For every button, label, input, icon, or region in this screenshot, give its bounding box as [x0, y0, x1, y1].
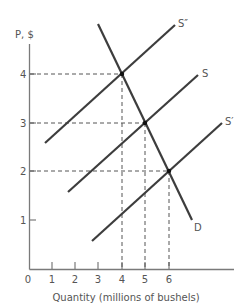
svg-text:4: 4 — [20, 69, 26, 80]
svg-text:6: 6 — [166, 274, 172, 285]
svg-text:5: 5 — [142, 274, 148, 285]
x-ticks — [52, 262, 169, 270]
svg-text:2: 2 — [72, 274, 78, 285]
svg-text:1: 1 — [49, 274, 55, 285]
svg-text:3: 3 — [95, 274, 101, 285]
svg-text:1: 1 — [20, 215, 26, 226]
supply-curve-s-double-prime — [45, 25, 175, 143]
x-tick-labels: 0 1 2 3 4 5 6 — [25, 274, 172, 285]
label-d: D — [194, 222, 202, 233]
y-axis-title: P, $ — [15, 29, 34, 40]
label-s-double-prime: S″ — [178, 18, 188, 29]
supply-curve-s-prime — [92, 123, 222, 241]
x-axis-title: Quantity (millions of bushels) — [52, 292, 199, 303]
supply-demand-chart: P, $ 1 2 3 4 0 1 2 3 4 5 6 Quantity (mil… — [0, 0, 244, 306]
label-s: S — [202, 68, 208, 79]
equilibrium-guides — [30, 74, 169, 269]
y-ticks — [30, 74, 37, 220]
supply-curve-s — [68, 75, 198, 192]
svg-text:3: 3 — [20, 118, 26, 129]
label-s-prime: S′ — [225, 116, 234, 127]
y-tick-labels: 1 2 3 4 — [20, 69, 26, 226]
svg-text:4: 4 — [119, 274, 125, 285]
svg-text:0: 0 — [25, 274, 31, 285]
svg-text:2: 2 — [20, 166, 26, 177]
